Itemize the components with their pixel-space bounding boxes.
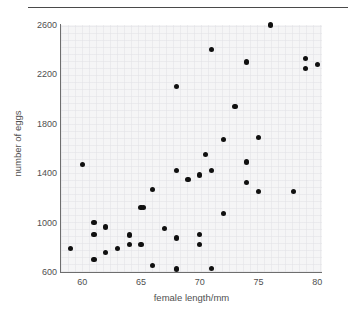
data-point bbox=[174, 235, 179, 240]
y-tick-label: 2200 bbox=[37, 69, 57, 79]
data-point bbox=[68, 246, 73, 251]
data-point bbox=[91, 220, 96, 225]
data-point bbox=[244, 180, 249, 185]
data-point bbox=[115, 246, 120, 251]
y-axis-tick-labels: 60010001400180022002600 bbox=[0, 0, 57, 323]
data-point bbox=[197, 232, 202, 237]
y-tick-label: 600 bbox=[42, 267, 57, 277]
data-point bbox=[103, 224, 108, 229]
data-point bbox=[203, 152, 208, 157]
data-point bbox=[209, 266, 214, 271]
data-point bbox=[209, 168, 214, 173]
data-point bbox=[91, 257, 96, 262]
y-tick-label: 2600 bbox=[37, 20, 57, 30]
data-point bbox=[162, 226, 167, 231]
plot-data-area bbox=[61, 25, 322, 272]
data-point bbox=[197, 172, 202, 177]
data-point bbox=[256, 189, 261, 194]
scatter-plot-figure: 60010001400180022002600 6065707580 femal… bbox=[0, 0, 348, 323]
data-point bbox=[303, 56, 308, 61]
x-tick-label: 70 bbox=[195, 277, 205, 287]
data-point bbox=[268, 22, 273, 27]
data-point bbox=[103, 250, 108, 255]
x-tick-label: 80 bbox=[312, 277, 322, 287]
data-point bbox=[127, 242, 132, 247]
data-point bbox=[291, 189, 296, 194]
y-tick-label: 1000 bbox=[37, 218, 57, 228]
data-point bbox=[232, 104, 237, 109]
data-point bbox=[141, 205, 146, 210]
data-point bbox=[244, 59, 249, 64]
data-point bbox=[221, 211, 226, 216]
top-divider-rule bbox=[28, 7, 348, 8]
data-point bbox=[303, 66, 308, 71]
y-axis-title: number of eggs bbox=[12, 94, 23, 194]
data-point bbox=[221, 137, 226, 142]
data-point bbox=[91, 232, 96, 237]
x-tick-label: 65 bbox=[136, 277, 146, 287]
x-axis-title: female length/mm bbox=[61, 292, 322, 303]
y-tick-label: 1800 bbox=[37, 119, 57, 129]
data-point bbox=[185, 177, 190, 182]
data-point bbox=[256, 135, 261, 140]
data-point bbox=[150, 263, 155, 268]
x-axis-line bbox=[60, 272, 322, 273]
x-tick-label: 60 bbox=[77, 277, 87, 287]
data-point bbox=[209, 47, 214, 52]
data-point bbox=[197, 242, 202, 247]
data-point bbox=[174, 84, 179, 89]
data-point bbox=[127, 232, 132, 237]
data-point bbox=[315, 62, 320, 67]
y-tick-label: 1400 bbox=[37, 168, 57, 178]
data-point bbox=[174, 266, 179, 271]
data-point bbox=[150, 187, 155, 192]
data-point bbox=[138, 242, 143, 247]
x-tick-label: 75 bbox=[253, 277, 263, 287]
data-point bbox=[80, 162, 85, 167]
data-point bbox=[174, 168, 179, 173]
data-point bbox=[244, 159, 249, 164]
